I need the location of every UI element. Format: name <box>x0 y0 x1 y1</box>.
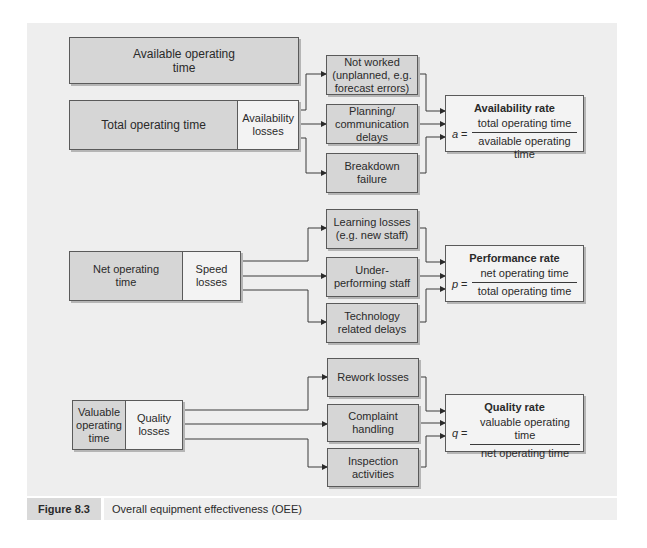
availability-rate-variable: a <box>452 128 458 140</box>
quality-rate-fraction: valuable operating time net operating ti… <box>470 416 580 460</box>
loss-item-label: Technology related delays <box>331 310 413 336</box>
quality-rate-box: Quality rate q = valuable operating time… <box>445 394 584 452</box>
loss-item-under-performing-staff: Under-performing staff <box>326 257 418 297</box>
loss-item-technology-delays: Technology related delays <box>326 303 418 343</box>
connector-availability-3 <box>298 138 326 173</box>
net-operating-time-box: Net operating time <box>70 252 183 300</box>
loss-item-not-worked: Not worked (unplanned, e.g. forecast err… <box>326 55 418 95</box>
connector-quality-4 <box>418 377 445 411</box>
net-operating-time-bar: Net operating time Speed losses <box>69 251 241 301</box>
speed-losses-label: Speed losses <box>189 263 234 289</box>
equals-sign: = <box>461 278 467 290</box>
figure-caption-text: Overall equipment effectiveness (OEE) <box>112 503 302 515</box>
connector-performance-1 <box>240 228 326 261</box>
loss-item-breakdown-failure: Breakdown failure <box>326 153 418 193</box>
total-operating-time-label: Total operating time <box>101 119 206 132</box>
equals-sign: = <box>461 427 467 439</box>
availability-rate-denominator: available operating time <box>472 133 577 161</box>
loss-item-label: Planning/ communication delays <box>329 105 415 144</box>
available-operating-time-box: Available operating time <box>69 37 299 84</box>
net-operating-time-label: Net operating time <box>90 263 162 289</box>
equals-sign: = <box>461 128 467 140</box>
quality-rate-numerator: valuable operating time <box>470 416 580 444</box>
total-operating-time-bar: Total operating time Availability losses <box>69 100 299 150</box>
loss-item-inspection-activities: Inspection activities <box>327 448 419 487</box>
valuable-operating-time-box: Valuable operating time <box>73 401 126 449</box>
figure-caption: Overall equipment effectiveness (OEE) <box>104 498 617 520</box>
connector-quality-3 <box>182 439 327 467</box>
quality-rate-title: Quality rate <box>446 401 583 413</box>
connector-performance-4 <box>418 228 445 262</box>
loss-item-planning-delays: Planning/ communication delays <box>326 104 418 144</box>
loss-item-label: Under-performing staff <box>329 264 415 290</box>
availability-rate-title: Availability rate <box>446 102 583 114</box>
loss-item-learning-losses: Learning losses (e.g. new staff) <box>326 209 418 249</box>
availability-losses-label: Availability losses <box>242 112 294 138</box>
loss-item-complaint-handling: Complaint handling <box>327 404 419 442</box>
connector-availability-4 <box>418 74 445 111</box>
connector-performance-6 <box>418 289 445 322</box>
loss-item-label: Inspection activities <box>342 455 404 481</box>
performance-rate-variable: p <box>452 278 458 290</box>
performance-rate-title: Performance rate <box>446 252 583 264</box>
figure-number: Figure 8.3 <box>27 498 101 520</box>
availability-rate-fraction: total operating time available operating… <box>472 117 577 161</box>
performance-rate-numerator: net operating time <box>472 267 577 282</box>
valuable-operating-time-bar: Valuable operating time Quality losses <box>72 400 183 450</box>
loss-item-label: Learning losses (e.g. new staff) <box>331 216 413 242</box>
total-operating-time-box: Total operating time <box>70 101 238 149</box>
connector-availability-6 <box>418 137 445 173</box>
performance-rate-denominator: total operating time <box>472 283 577 298</box>
quality-rate-variable: q <box>452 427 458 439</box>
performance-rate-fraction: net operating time total operating time <box>472 267 577 298</box>
connector-quality-1 <box>182 377 327 410</box>
loss-item-rework-losses: Rework losses <box>327 358 419 397</box>
quality-rate-denominator: net operating time <box>470 445 580 460</box>
loss-item-label: Complaint handling <box>340 410 406 436</box>
quality-losses-label: Quality losses <box>132 412 176 438</box>
connector-performance-3 <box>240 290 326 322</box>
loss-item-label: Breakdown failure <box>341 160 403 186</box>
availability-rate-numerator: total operating time <box>472 117 577 132</box>
availability-rate-box: Availability rate a = total operating ti… <box>445 95 584 152</box>
availability-losses-box: Availability losses <box>238 101 298 149</box>
loss-item-label: Rework losses <box>337 371 409 384</box>
connector-availability-1 <box>298 74 326 110</box>
connector-quality-6 <box>418 436 445 467</box>
quality-losses-box: Quality losses <box>126 401 182 449</box>
valuable-operating-time-label: Valuable operating time <box>73 406 125 445</box>
performance-rate-box: Performance rate p = net operating time … <box>445 245 584 302</box>
available-operating-time-label: Available operating time <box>130 47 238 75</box>
speed-losses-box: Speed losses <box>183 252 240 300</box>
loss-item-label: Not worked (unplanned, e.g. forecast err… <box>330 56 414 95</box>
figure-number-text: Figure 8.3 <box>38 503 90 515</box>
